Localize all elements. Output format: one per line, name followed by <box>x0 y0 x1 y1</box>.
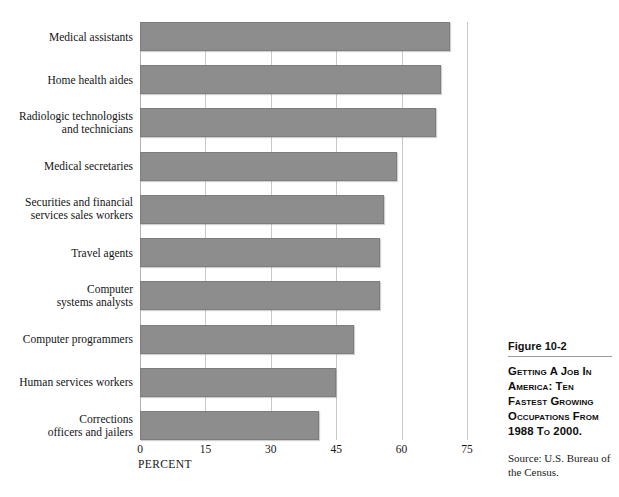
x-tick-label: 0 <box>137 443 143 455</box>
bar-row: Computer programmers <box>140 325 467 354</box>
category-label: Home health aides <box>0 73 133 86</box>
bar-row: Radiologic technologists and technicians <box>140 108 467 137</box>
bar-row: Medical secretaries <box>140 152 467 181</box>
x-tick-label: 60 <box>396 443 408 455</box>
category-label: Corrections officers and jailers <box>0 413 133 439</box>
category-label: Human services workers <box>0 376 133 389</box>
bar <box>140 325 354 354</box>
bar-row: Human services workers <box>140 368 467 397</box>
bar-row: Medical assistants <box>140 22 467 51</box>
x-tick-label: 75 <box>461 443 473 455</box>
bar <box>140 22 450 51</box>
plot-area: Medical assistantsHome health aidesRadio… <box>140 22 467 440</box>
bar-row: Corrections officers and jailers <box>140 411 467 440</box>
category-label: Travel agents <box>0 246 133 259</box>
figure-root: Medical assistantsHome health aidesRadio… <box>0 0 619 497</box>
bar <box>140 152 397 181</box>
x-tick-label: 30 <box>265 443 277 455</box>
bar <box>140 411 319 440</box>
bar <box>140 368 336 397</box>
x-tick-label: 15 <box>200 443 212 455</box>
figure-number: Figure 10-2 <box>508 340 612 357</box>
x-axis-title: PERCENT <box>138 458 192 470</box>
category-label: Computer programmers <box>0 333 133 346</box>
category-label: Securities and financial services sales … <box>0 196 133 222</box>
bar-chart: Medical assistantsHome health aidesRadio… <box>0 0 497 497</box>
category-label: Radiologic technologists and technicians <box>0 110 133 136</box>
category-label: Medical assistants <box>0 30 133 43</box>
caption-source: Source: U.S. Bureau of the Census. <box>508 451 612 479</box>
category-label: Computer systems analysts <box>0 283 133 309</box>
bar <box>140 238 380 267</box>
bar-row: Home health aides <box>140 65 467 94</box>
bar-row: Travel agents <box>140 238 467 267</box>
caption-title: Getting A Job In America: Ten Fastest Gr… <box>508 364 612 439</box>
bar <box>140 195 384 224</box>
bar-row: Securities and financial services sales … <box>140 195 467 224</box>
bar-row: Computer systems analysts <box>140 281 467 310</box>
x-tick-label: 45 <box>330 443 342 455</box>
bar <box>140 65 441 94</box>
gridline-75 <box>467 22 468 440</box>
caption-panel: Figure 10-2 Getting A Job In America: Te… <box>508 340 612 479</box>
category-label: Medical secretaries <box>0 160 133 173</box>
bar <box>140 281 380 310</box>
bar <box>140 108 436 137</box>
